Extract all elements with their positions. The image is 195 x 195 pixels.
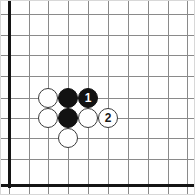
stone-white-c4r7[interactable]	[58, 128, 78, 148]
stone-move-number: 2	[105, 112, 112, 124]
stone-move-number: 1	[85, 92, 92, 104]
stone-layer: 12	[1, 1, 195, 195]
stone-black-c4r5[interactable]	[58, 88, 78, 108]
go-board-diagram: 12	[0, 0, 195, 195]
stone-black-move-1[interactable]: 1	[78, 88, 98, 108]
stone-white-move-2[interactable]: 2	[98, 108, 118, 128]
stone-black-c4r6[interactable]	[58, 108, 78, 128]
stone-white-c3r5[interactable]	[38, 88, 58, 108]
stone-white-c3r6[interactable]	[38, 108, 58, 128]
stone-white-c5r6[interactable]	[78, 108, 98, 128]
